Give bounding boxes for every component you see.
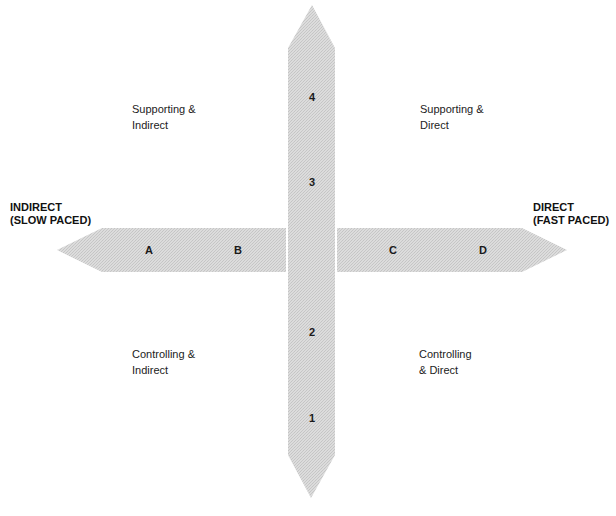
indirect-label-line1: INDIRECT — [10, 201, 91, 214]
marker-d: D — [479, 244, 487, 256]
quadrant-line: Controlling — [419, 346, 472, 362]
vertical-arrow — [288, 5, 335, 498]
quadrant-line: Supporting & — [420, 101, 484, 117]
direct-label-line1: DIRECT — [533, 201, 609, 214]
direct-axis-label: DIRECT (FAST PACED) — [533, 201, 609, 227]
quadrant-diagram: A B C D 4 3 2 1 — [0, 0, 616, 516]
quadrant-line: Direct — [420, 117, 484, 133]
quadrant-controlling-indirect: Controlling & Indirect — [132, 346, 195, 378]
marker-b: B — [234, 244, 242, 256]
marker-4: 4 — [309, 91, 316, 103]
marker-2: 2 — [309, 326, 315, 338]
left-arrow — [57, 228, 286, 272]
right-arrow — [337, 228, 567, 272]
quadrant-line: Supporting & — [132, 101, 196, 117]
marker-1: 1 — [309, 412, 315, 424]
indirect-label-line2: (SLOW PACED) — [10, 214, 91, 227]
marker-3: 3 — [309, 176, 315, 188]
marker-a: A — [145, 244, 153, 256]
quadrant-controlling-direct: Controlling & Direct — [419, 346, 472, 378]
quadrant-line: Controlling & — [132, 346, 195, 362]
indirect-axis-label: INDIRECT (SLOW PACED) — [10, 201, 91, 227]
quadrant-supporting-direct: Supporting & Direct — [420, 101, 484, 133]
quadrant-line: Indirect — [132, 117, 196, 133]
marker-c: C — [389, 244, 397, 256]
quadrant-supporting-indirect: Supporting & Indirect — [132, 101, 196, 133]
direct-label-line2: (FAST PACED) — [533, 214, 609, 227]
quadrant-line: Indirect — [132, 362, 195, 378]
quadrant-line: & Direct — [419, 362, 472, 378]
